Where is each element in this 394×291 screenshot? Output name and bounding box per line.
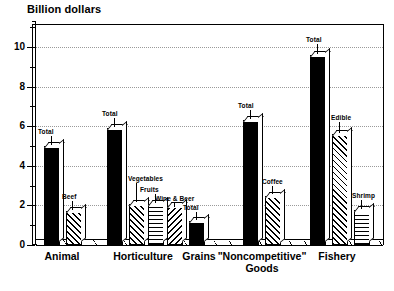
bar-side-face <box>325 48 330 242</box>
y-axis-label-4: 4 <box>0 160 25 171</box>
bar-side-face <box>122 121 127 242</box>
annotation-fishery-shrimp: Shrimp <box>352 192 375 199</box>
bar-horticulture-fruits[interactable] <box>148 204 164 245</box>
chart-title: Billion dollars <box>27 3 101 15</box>
category-label-fishery: Fishery <box>318 250 355 262</box>
y-tick-minor-7 <box>30 106 35 107</box>
bar-horticulture-total[interactable] <box>107 128 123 245</box>
category-label-line1: Grains <box>182 250 215 262</box>
bar-side-face <box>347 127 352 242</box>
category-label-animal: Animal <box>44 250 79 262</box>
leader-noncompetitive-coffee <box>272 186 273 194</box>
y-tick-8 <box>27 87 35 88</box>
annotation-noncompetitive-coffee: Coffee <box>262 178 283 185</box>
annotation-fishery-total: Total <box>306 36 322 43</box>
leader-noncompetitive-total <box>250 110 251 119</box>
leader-animal-total <box>51 136 52 145</box>
category-label-noncompetitive: "Noncompetitive" Goods <box>218 250 307 274</box>
y-axis-label-8: 8 <box>0 81 25 92</box>
leader-animal-beef <box>72 201 73 210</box>
category-label-line2: Goods <box>218 262 307 274</box>
y-axis-line <box>35 21 36 245</box>
annotation-fishery-edible: Edible <box>331 114 351 121</box>
y-tick-minor-11 <box>30 27 35 28</box>
gridline-10 <box>36 47 383 48</box>
y-tick-minor-3 <box>30 186 35 187</box>
bar-fishery-edible[interactable] <box>332 134 348 245</box>
category-label-line1: "Noncompetitive" <box>218 250 307 262</box>
leader-fishery-total <box>317 44 318 54</box>
gridline-4 <box>36 166 383 167</box>
bar-animal-total[interactable] <box>44 146 60 245</box>
bar-noncompetitive-coffee[interactable] <box>265 196 281 246</box>
bar-noncompetitive-total[interactable] <box>243 120 259 245</box>
bar-horticulture-wine-beer[interactable] <box>167 206 183 245</box>
gridline-8 <box>36 87 383 88</box>
leader-horticulture-vegetables <box>136 183 137 202</box>
bar-side-face <box>59 139 64 242</box>
category-label-horticulture: Horticulture <box>113 250 173 262</box>
category-label-line1: Fishery <box>318 250 355 262</box>
annotation-animal-total: Total <box>38 128 54 135</box>
y-axis-label-0: 0 <box>0 239 25 250</box>
gridline-6 <box>36 126 383 127</box>
leader-fishery-shrimp <box>361 200 362 209</box>
annotation-horticulture-wine-beer: Wine & Beer <box>155 195 194 202</box>
bar-horticulture-vegetables[interactable] <box>129 204 145 245</box>
bar-side-face <box>280 189 285 242</box>
annotation-animal-beef: Beef <box>62 193 77 200</box>
annotation-grains-total: Total <box>183 204 199 211</box>
bar-side-face <box>81 204 86 242</box>
y-axis-label-10: 10 <box>0 41 25 52</box>
leader-grains-total <box>196 212 197 220</box>
bar-side-face <box>369 203 374 242</box>
chart-container: Billion dollars 10 8 6 4 2 0 Total Beef <box>0 0 394 291</box>
bar-fishery-shrimp[interactable] <box>354 210 370 245</box>
y-tick-4 <box>27 166 35 167</box>
annotation-horticulture-vegetables: Vegetables <box>128 175 163 182</box>
annotation-horticulture-total: Total <box>102 110 118 117</box>
y-tick-minor-5 <box>30 146 35 147</box>
y-tick-6 <box>27 126 35 127</box>
annotation-noncompetitive-total: Total <box>238 102 254 109</box>
y-tick-minor-9 <box>30 67 35 68</box>
category-label-grains: Grains <box>182 250 215 262</box>
x-axis-baseline <box>36 239 383 246</box>
y-axis-label-6: 6 <box>0 120 25 131</box>
category-label-line1: Animal <box>44 250 79 262</box>
y-tick-2 <box>27 205 35 206</box>
bar-animal-beef[interactable] <box>66 211 82 245</box>
category-label-line1: Horticulture <box>113 250 173 262</box>
bar-fishery-total[interactable] <box>310 55 326 245</box>
y-tick-minor-1 <box>30 225 35 226</box>
leader-horticulture-wine-beer <box>174 203 175 207</box>
annotation-horticulture-fruits: Fruits <box>140 186 159 193</box>
leader-fishery-edible <box>339 122 340 133</box>
bar-side-face <box>204 214 209 242</box>
gridline-2 <box>36 205 383 206</box>
y-tick-10 <box>27 47 35 48</box>
bar-grains-total[interactable] <box>189 221 205 245</box>
y-tick-0 <box>27 245 35 246</box>
leader-horticulture-total <box>114 118 115 127</box>
y-axis-label-2: 2 <box>0 199 25 210</box>
y-axis-top-cap <box>32 21 36 22</box>
